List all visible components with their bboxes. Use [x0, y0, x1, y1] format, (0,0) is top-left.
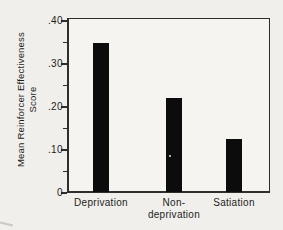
- y-axis-minor-tick: [63, 171, 67, 173]
- y-tick-label: .20: [28, 101, 63, 113]
- bar-satiation: [226, 139, 242, 192]
- scan-artifact-dot: [169, 155, 171, 157]
- y-tick-label: .10: [28, 144, 63, 156]
- bar-chart-figure: Mean Reinforcer Effectiveness Score .40.…: [0, 0, 283, 230]
- scan-artifact-smudge: [0, 221, 13, 226]
- x-tick-label-satiation: Satiation: [189, 197, 279, 209]
- bar-non-deprivation: [166, 98, 182, 192]
- x-tick-label-non-deprivation: deprivation: [129, 209, 219, 221]
- bar-deprivation: [93, 43, 109, 193]
- y-axis-minor-tick: [63, 85, 67, 87]
- y-tick-label: .30: [28, 58, 63, 70]
- y-axis-minor-tick: [63, 42, 67, 44]
- y-axis-title-line-1: Mean Reinforcer Effectiveness: [15, 25, 27, 175]
- y-tick-label: .40: [28, 15, 63, 27]
- y-axis-minor-tick: [63, 128, 67, 130]
